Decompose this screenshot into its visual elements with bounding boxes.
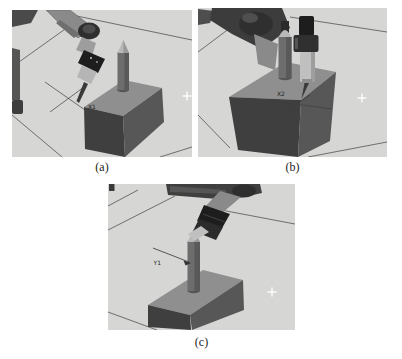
touch-point-label: X2: [277, 90, 285, 97]
robot-base-foot: [12, 100, 23, 114]
cube-front-face: [229, 97, 301, 157]
probe-body-shade: [311, 52, 315, 82]
caption-b: (b): [198, 160, 387, 175]
peg-cylinder: [278, 30, 291, 80]
peg-body-shade: [286, 37, 292, 78]
touch-point-label: Y1: [153, 259, 162, 266]
panel-c-screenshot: Y1: [108, 184, 295, 330]
panel-a-screenshot: X1: [12, 10, 192, 157]
robot-base-pillar: [12, 48, 20, 102]
robot-wrist-highlight: [242, 13, 258, 23]
figure-page: X1: [0, 0, 402, 359]
robot-wrist-highlight: [83, 25, 96, 34]
robot-base-fragment: [109, 184, 115, 191]
tool-cap: [299, 16, 314, 36]
caption-c: (c): [108, 335, 295, 350]
panel-a-scene: X1: [12, 10, 192, 157]
tool-ring-highlight: [295, 38, 298, 49]
panel-c-scene: Y1: [108, 184, 295, 330]
tool-clamp-screw: [90, 57, 92, 59]
peg-body-shade: [125, 52, 130, 90]
caption-a: (a): [12, 160, 192, 175]
tool-clamp-screw: [96, 61, 98, 63]
panel-b-screenshot: X2: [198, 8, 387, 157]
touch-point-label: X1: [88, 103, 96, 110]
panel-b-scene: X2: [198, 8, 387, 157]
peg-body-shade: [195, 241, 201, 291]
